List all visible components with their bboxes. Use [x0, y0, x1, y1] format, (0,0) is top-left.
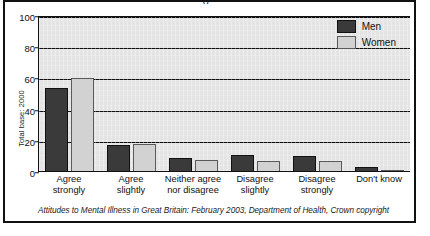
x-axis-label: Disagreeslightly: [224, 174, 286, 195]
y-tick-label-100: 100: [19, 12, 35, 23]
x-axis-label-line1: Neither agree: [162, 174, 224, 185]
legend-label-women: Women: [362, 37, 396, 48]
legend-item-men: Men: [337, 20, 396, 33]
x-axis-label-line1: Agree: [100, 174, 162, 185]
x-axis-label: Neither agreenor disagree: [162, 174, 224, 195]
x-axis-label: Disagreestrongly: [286, 174, 348, 195]
figure-frame: y Total base: 2000 020406080100 Agreestr…: [3, 0, 416, 223]
x-axis-label: Don't know: [348, 174, 410, 195]
y-tick-label-60: 60: [24, 74, 35, 85]
x-axis-label-line2: slightly: [100, 185, 162, 196]
legend-label-men: Men: [362, 21, 381, 32]
x-axis-label-line1: Disagree: [224, 174, 286, 185]
chart-legend: Men Women: [337, 20, 396, 49]
bar-men[interactable]: [293, 156, 316, 172]
y-tick-label-40: 40: [24, 105, 35, 116]
figure-inner: y Total base: 2000 020406080100 Agreestr…: [5, 2, 414, 221]
y-axis-label: Total base: 2000: [17, 49, 26, 189]
x-axis-label-line2: slightly: [224, 185, 286, 196]
x-axis-label-line1: Agree: [38, 174, 100, 185]
x-axis-labels: AgreestronglyAgreeslightlyNeither agreen…: [38, 174, 410, 195]
legend-item-women: Women: [337, 36, 396, 49]
legend-swatch-women-icon: [337, 36, 356, 49]
bar-women[interactable]: [133, 144, 156, 172]
clipped-title-sliver: y: [203, 0, 229, 4]
bar-men[interactable]: [169, 158, 192, 172]
y-tick-label-20: 20: [24, 136, 35, 147]
x-axis-label-line1: Disagree: [286, 174, 348, 185]
y-tick-label-80: 80: [24, 43, 35, 54]
bar-women[interactable]: [71, 78, 94, 172]
bar-group: [162, 16, 224, 172]
bar-men[interactable]: [45, 88, 68, 172]
x-axis-label-line2: strongly: [38, 185, 100, 196]
x-axis-label-line1: Don't know: [348, 174, 410, 185]
bar-group: [38, 16, 100, 172]
bar-group: [100, 16, 162, 172]
bar-men[interactable]: [107, 145, 130, 172]
x-axis-baseline: [38, 171, 410, 172]
legend-swatch-men-icon: [337, 20, 356, 33]
x-axis-label: Agreeslightly: [100, 174, 162, 195]
x-axis-label: Agreestrongly: [38, 174, 100, 195]
bar-group: [224, 16, 286, 172]
figure-caption: Attitudes to Mental Illness in Great Bri…: [38, 206, 406, 215]
y-tick-label-0: 0: [30, 168, 35, 179]
x-axis-label-line2: nor disagree: [162, 185, 224, 196]
x-axis-label-line2: strongly: [286, 185, 348, 196]
bar-men[interactable]: [231, 155, 254, 172]
